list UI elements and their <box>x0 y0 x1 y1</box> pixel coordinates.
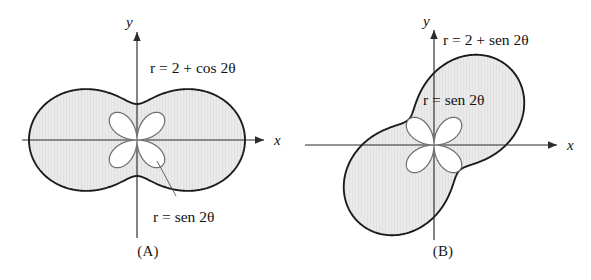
y-axis-arrow-a <box>133 32 140 41</box>
x-axis-label-a: x <box>273 132 281 148</box>
y-axis-arrow-b <box>430 30 437 39</box>
x-axis-label-b: x <box>566 137 574 153</box>
y-axis-label-a: y <box>124 14 133 30</box>
panel-b-caption: (B) <box>295 243 591 260</box>
inner-curve-label-b: r = sen 2θ <box>423 91 484 108</box>
panel-b-plot: x y r = 2 + sen 2θ r = sen 2θ <box>295 0 591 280</box>
outer-curve-label-a: r = 2 + cos 2θ <box>150 59 236 76</box>
panel-a: x y r = 2 + cos 2θ r = sen 2θ (A) <box>0 0 296 280</box>
panel-a-caption: (A) <box>0 243 296 260</box>
y-axis-label-b: y <box>421 13 430 29</box>
polar-curves-figure: x y r = 2 + cos 2θ r = sen 2θ (A) <box>0 0 591 280</box>
outer-curve-label-b: r = 2 + sen 2θ <box>443 31 529 48</box>
x-axis-arrow-a <box>255 136 264 143</box>
x-axis-arrow-b <box>548 141 557 148</box>
panel-a-plot: x y r = 2 + cos 2θ r = sen 2θ <box>0 0 296 280</box>
inner-curve-label-a: r = sen 2θ <box>153 208 214 225</box>
panel-b: x y r = 2 + sen 2θ r = sen 2θ (B) <box>295 0 591 280</box>
